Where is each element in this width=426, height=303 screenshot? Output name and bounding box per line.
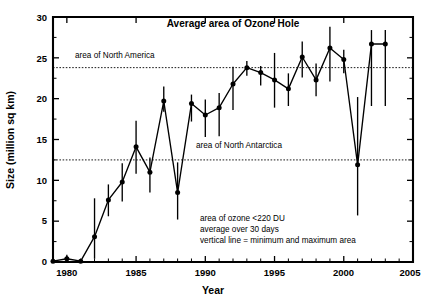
reference-label-north-antarctica: area of North Antarctica (196, 141, 282, 150)
data-point-marker (78, 259, 83, 264)
data-point-marker (203, 113, 208, 118)
data-point-marker (51, 259, 56, 264)
y-tick-label-15: 15 (36, 134, 47, 145)
data-point-marker (244, 65, 249, 70)
x-axis-title: Year (202, 284, 224, 296)
data-point-marker (231, 81, 236, 86)
annotation-line-3: vertical line = minimum and maximum area (200, 236, 356, 245)
x-tick-label-1980: 1980 (56, 267, 77, 278)
y-tick-label-0: 0 (42, 256, 47, 267)
y-tick-label-30: 30 (36, 12, 47, 23)
data-point-marker (161, 99, 166, 104)
y-tick-label-5: 5 (42, 215, 48, 226)
ozone-hole-chart: 0 5 10 15 20 25 30 1980 1985 1990 1995 2… (0, 0, 426, 303)
annotation-line-2: average over 30 days (200, 225, 279, 234)
x-tick-label-2000: 2000 (333, 267, 354, 278)
data-point-marker (175, 190, 180, 195)
data-point-marker (383, 41, 388, 46)
x-tick-label-1995: 1995 (264, 267, 286, 278)
data-point-marker (106, 197, 111, 202)
data-point-marker (217, 105, 222, 110)
data-point-marker (300, 55, 305, 60)
annotation-line-1: area of ozone <220 DU (200, 214, 285, 223)
data-point-marker (189, 101, 194, 106)
data-point-marker (64, 256, 69, 261)
data-point-marker (341, 57, 346, 62)
chart-canvas: 0 5 10 15 20 25 30 1980 1985 1990 1995 2… (0, 0, 426, 303)
chart-title: Average area of Ozone Hole (167, 18, 300, 29)
data-point-marker (327, 46, 332, 51)
reference-label-north-america: area of North America (75, 51, 155, 60)
data-point-marker (369, 41, 374, 46)
data-point-marker (355, 162, 360, 167)
data-point-marker (286, 86, 291, 91)
data-point-marker (120, 179, 125, 184)
x-tick-label-2005: 2005 (399, 267, 421, 278)
x-tick-label-1985: 1985 (125, 267, 147, 278)
y-tick-label-10: 10 (36, 175, 47, 186)
chart-background (0, 0, 426, 303)
data-point-marker (258, 70, 263, 75)
data-point-marker (134, 144, 139, 149)
x-tick-label-1990: 1990 (195, 267, 216, 278)
y-axis-title: Size (million sq km) (4, 91, 16, 189)
data-point-marker (147, 170, 152, 175)
y-tick-label-25: 25 (36, 53, 47, 64)
data-point-marker (272, 77, 277, 82)
data-point-marker (92, 234, 97, 239)
y-tick-label-20: 20 (36, 93, 47, 104)
data-point-marker (314, 77, 319, 82)
